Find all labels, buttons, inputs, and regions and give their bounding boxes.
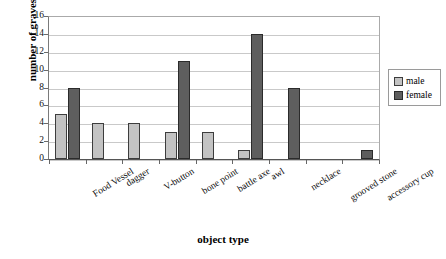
bar-group xyxy=(269,17,306,159)
legend-item-male: male xyxy=(394,77,436,87)
legend-swatch-female-icon xyxy=(394,91,403,100)
y-axis-tick-label: 8 xyxy=(22,82,44,92)
bar-male xyxy=(55,114,67,159)
bar-chart: number of graves 1614121086420 Food Vess… xyxy=(0,0,446,259)
y-axis-tick-label: 2 xyxy=(22,135,44,145)
x-axis-tick-mark xyxy=(342,160,343,164)
x-axis-tick-mark xyxy=(379,160,380,164)
category-label: V-button xyxy=(162,166,196,192)
bar-group xyxy=(232,17,269,159)
x-axis-tick-mark xyxy=(86,160,87,164)
bar-group xyxy=(196,17,233,159)
bar-female xyxy=(361,150,373,159)
bar-male xyxy=(92,123,104,159)
legend-swatch-male-icon xyxy=(394,77,403,86)
category-label: necklace xyxy=(309,166,342,192)
bar-male xyxy=(202,132,214,159)
legend-label-female: female xyxy=(406,91,432,101)
bar-series-container xyxy=(49,17,379,159)
bar-group xyxy=(306,17,343,159)
y-axis-tick-label: 10 xyxy=(22,64,44,74)
gridline xyxy=(49,160,379,161)
x-axis-title: object type xyxy=(0,233,446,245)
x-axis-tick-mark xyxy=(306,160,307,164)
legend-item-female: female xyxy=(394,91,436,101)
y-axis-tick-label: 0 xyxy=(22,153,44,163)
bar-group xyxy=(86,17,123,159)
category-label: battle axe xyxy=(236,166,272,194)
y-axis-tick-label: 16 xyxy=(22,10,44,20)
bar-group xyxy=(342,17,379,159)
bar-female xyxy=(251,34,263,159)
bar-group xyxy=(49,17,86,159)
bar-male xyxy=(238,150,250,159)
bar-male xyxy=(165,132,177,159)
y-axis-tick-label: 14 xyxy=(22,28,44,38)
bar-female xyxy=(288,88,300,160)
y-axis-tick-label: 4 xyxy=(22,117,44,127)
y-axis-tick-label: 6 xyxy=(22,99,44,109)
bar-female xyxy=(68,88,80,160)
y-axis-tick-label: 12 xyxy=(22,46,44,56)
category-label: bone point xyxy=(200,166,240,196)
x-axis-tick-mark xyxy=(159,160,160,164)
legend: male female xyxy=(388,69,441,106)
legend-label-male: male xyxy=(406,77,424,87)
x-axis-tick-mark xyxy=(196,160,197,164)
bar-male xyxy=(128,123,140,159)
x-axis-tick-mark xyxy=(269,160,270,164)
x-axis-tick-mark xyxy=(122,160,123,164)
bar-group xyxy=(159,17,196,159)
bar-female xyxy=(178,61,190,159)
x-axis-tick-mark xyxy=(232,160,233,164)
bar-group xyxy=(122,17,159,159)
x-axis-tick-mark xyxy=(49,160,50,164)
category-label: awl xyxy=(269,166,286,182)
